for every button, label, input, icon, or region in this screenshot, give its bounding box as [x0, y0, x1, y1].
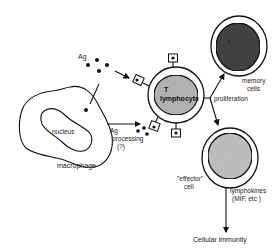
memory-cell-t-mark: T	[227, 39, 231, 46]
ag-processing-label-line2: processing	[112, 135, 144, 143]
t-lymphocyte: T lymphocyte	[148, 67, 204, 123]
arrow-to-effector-cell	[210, 98, 218, 125]
cellular-immunity-label: Cellular immunity	[193, 236, 247, 244]
macrophage-cell	[19, 86, 112, 167]
lymphokines-label-line2: (MIF, etc )	[232, 195, 261, 203]
t-lymphocyte-label-line1: T	[164, 86, 169, 93]
antigen-dot	[142, 126, 146, 130]
lymphokines-label-line1: lymphokines	[230, 187, 267, 195]
antigen-dot	[136, 129, 140, 133]
nucleus-label: nucleus	[52, 128, 75, 135]
antigen-dot	[95, 58, 99, 62]
bound-antigen-dot	[174, 131, 177, 134]
memory-cells-label-line2: cells	[247, 85, 261, 92]
effector-cell-label-line2: cell	[184, 183, 194, 190]
t-lymphocyte-label-line2: lymphocyte	[160, 95, 199, 103]
bound-antigen-dot	[171, 56, 174, 59]
receptor-stalk	[143, 83, 149, 86]
arrow-antigen-to-t-lymphocyte	[115, 71, 129, 78]
antigen-label: Ag	[78, 53, 87, 61]
antigen-dot	[105, 63, 109, 67]
antigen-dot	[145, 132, 149, 136]
effector-cell	[202, 128, 258, 188]
proliferation-label: proliferation	[214, 95, 248, 103]
antigen-dot	[97, 69, 101, 73]
antigen-dot	[86, 63, 90, 67]
macrophage-label: macrophage	[57, 162, 96, 170]
effector-cell-label-line1: "effector"	[177, 175, 204, 182]
antigen-particles	[86, 58, 109, 73]
antigen-dot-internalized	[84, 108, 88, 112]
ag-processing-label-line1: Ag	[110, 127, 118, 135]
bound-antigen-dot	[135, 78, 138, 81]
memory-cell: T	[211, 16, 267, 76]
effector-cell-nucleus	[208, 133, 252, 179]
diagram-canvas: Ag nucleus macrophage Ag processing (?) …	[0, 0, 276, 249]
bound-antigen-dot	[152, 125, 155, 128]
ag-processing-label-line3: (?)	[117, 143, 125, 151]
memory-cells-label-line1: memory	[242, 77, 266, 85]
memory-cell-nucleus	[216, 23, 260, 71]
